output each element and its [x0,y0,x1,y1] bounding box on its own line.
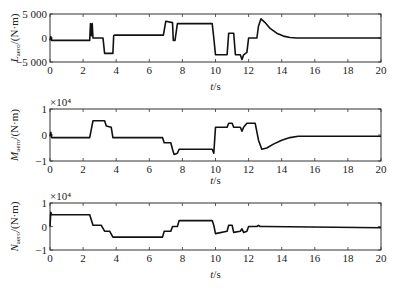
x-axis-title: t/s [210,80,220,92]
y-tick-label: −5 000 [16,56,47,68]
x-tick-label: 20 [376,64,388,76]
x-axis-title: t/s [210,174,220,186]
x-tick-label: 4 [113,163,119,175]
panel-n-aero: 0246810121416182010−1×10⁴t/sNaero/(N·m) [8,190,387,280]
x-tick-label: 12 [243,64,254,76]
y-tick-label: 0 [42,221,48,233]
x-tick-label: 16 [309,64,321,76]
x-tick-label: 0 [47,163,53,175]
x-tick-label: 6 [147,64,153,76]
x-tick-label: 14 [276,64,288,76]
y-tick-label: 0 [42,129,48,141]
x-tick-label: 8 [180,252,186,264]
x-tick-label: 0 [47,64,53,76]
x-tick-label: 0 [47,252,53,264]
x-tick-label: 6 [147,252,153,264]
x-tick-label: 16 [309,163,321,175]
x-tick-label: 8 [180,163,186,175]
x-tick-label: 2 [80,163,86,175]
y-tick-label: 1 [42,197,48,209]
x-axis-title: t/s [210,268,220,280]
y-tick-label: −1 [35,244,47,256]
chart-figure: 024681012141618205 0000−5 000t/sLaero/(N… [0,0,393,289]
x-tick-label: 16 [309,252,321,264]
y-multiplier-label: ×10⁴ [50,96,71,108]
x-tick-label: 14 [276,252,288,264]
x-tick-label: 12 [243,252,254,264]
x-tick-label: 6 [147,163,153,175]
x-tick-label: 10 [210,252,222,264]
x-tick-label: 20 [376,252,388,264]
y-axis-title: Maero/(N·m) [8,109,22,162]
x-tick-label: 18 [342,163,354,175]
y-tick-label: 0 [42,32,48,44]
data-series-line [50,212,381,237]
x-tick-label: 18 [342,252,354,264]
x-tick-label: 20 [376,163,388,175]
panel-m-aero: 0246810121416182010−1×10⁴t/sMaero/(N·m) [8,96,387,186]
x-tick-label: 10 [210,64,222,76]
panel-l-aero: 024681012141618205 0000−5 000t/sLaero/(N… [8,8,387,92]
data-series-line [50,121,381,155]
x-tick-label: 2 [80,64,86,76]
x-tick-label: 8 [180,64,186,76]
x-tick-label: 2 [80,252,86,264]
x-tick-label: 14 [276,163,288,175]
y-multiplier-label: ×10⁴ [50,190,71,202]
x-tick-label: 4 [113,64,119,76]
y-tick-label: 1 [42,103,48,115]
y-tick-label: −1 [35,155,47,167]
y-tick-label: 5 000 [22,8,47,20]
x-tick-label: 12 [243,163,254,175]
y-axis-title: Laero/(N·m) [8,13,22,63]
x-tick-label: 4 [113,252,119,264]
data-series-line [50,19,381,60]
y-axis-title: Naero/(N·m) [8,201,22,252]
x-tick-label: 18 [342,64,354,76]
